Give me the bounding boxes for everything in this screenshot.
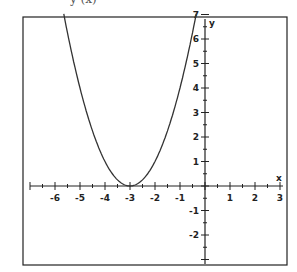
y-tick-label: -1 (189, 206, 199, 216)
x-tick-label: 1 (227, 193, 233, 203)
y-axis-label: y (209, 18, 215, 28)
y-tick-label: 1 (193, 157, 199, 167)
x-tick-label: -1 (175, 193, 185, 203)
y-tick-label: 6 (193, 34, 199, 44)
y-tick-label: 2 (193, 132, 199, 142)
x-axis-label: x (276, 173, 282, 183)
plot-frame (23, 17, 287, 265)
y-tick-label: -2 (189, 230, 199, 240)
chart-plot: -6-5-4-3-2-1123-2-11234567 x y (0, 0, 297, 272)
tick-labels: -6-5-4-3-2-1123-2-11234567 (50, 10, 283, 241)
x-tick-label: 2 (252, 193, 258, 203)
x-tick-label: -4 (100, 193, 110, 203)
x-tick-label: 3 (277, 193, 283, 203)
x-tick-label: -2 (150, 193, 160, 203)
x-tick-label: -6 (50, 193, 60, 203)
parabola-curve (64, 14, 196, 186)
axes (30, 19, 283, 264)
x-tick-label: -3 (125, 193, 135, 203)
y-tick-label: 4 (193, 83, 199, 93)
ticks (30, 15, 280, 260)
y-tick-label: 5 (193, 59, 199, 69)
y-tick-label: 3 (193, 108, 199, 118)
x-tick-label: -5 (75, 193, 85, 203)
